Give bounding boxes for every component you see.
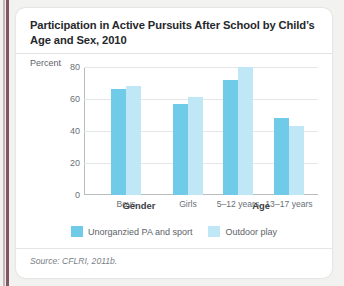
page-margin-rule bbox=[6, 0, 9, 286]
bar-group bbox=[274, 67, 304, 195]
figure-card: Participation in Active Pursuits After S… bbox=[16, 8, 332, 278]
bar-outdoor-play bbox=[188, 97, 203, 195]
y-axis-tick-label: 20 bbox=[54, 158, 80, 168]
legend-swatch bbox=[208, 226, 220, 237]
bar-outdoor-play bbox=[238, 67, 253, 195]
legend-item: Unorganzied PA and sport bbox=[71, 226, 192, 237]
legend-label: Unorganzied PA and sport bbox=[88, 227, 192, 237]
page-margin-rule-outer bbox=[3, 0, 5, 286]
legend-item: Outdoor play bbox=[208, 226, 277, 237]
chart-legend: Unorganzied PA and sportOutdoor play bbox=[16, 226, 332, 237]
bar-group bbox=[111, 67, 141, 195]
bar-outdoor-play bbox=[289, 126, 304, 195]
scanned-page-background: Participation in Active Pursuits After S… bbox=[0, 0, 344, 286]
figure-source: Source: CFLRI, 2011b. bbox=[30, 256, 117, 266]
y-axis-tick-label: 60 bbox=[54, 94, 80, 104]
bar-group bbox=[223, 67, 253, 195]
bar-unorganized-pa-and-sport bbox=[173, 104, 188, 195]
bar-unorganized-pa-and-sport bbox=[111, 89, 126, 195]
figure-title: Participation in Active Pursuits After S… bbox=[30, 18, 318, 47]
bar-unorganized-pa-and-sport bbox=[274, 118, 289, 195]
y-axis-tick-label: 40 bbox=[54, 126, 80, 136]
legend-label: Outdoor play bbox=[225, 227, 277, 237]
axis-group-label-age: Age bbox=[206, 200, 316, 211]
bar-outdoor-play bbox=[126, 86, 141, 195]
bar-unorganized-pa-and-sport bbox=[223, 80, 238, 195]
legend-swatch bbox=[71, 226, 83, 237]
chart-area: Percent 020406080 BoysGirls5–12 years13–… bbox=[16, 53, 332, 213]
axis-group-label-gender: Gender bbox=[84, 200, 194, 211]
y-axis-tick-label: 0 bbox=[54, 190, 80, 200]
source-divider bbox=[16, 248, 332, 249]
y-axis-tick-label: 80 bbox=[54, 62, 80, 72]
bar-group bbox=[173, 67, 203, 195]
plot-region: 020406080 BoysGirls5–12 years13–17 years bbox=[84, 67, 318, 195]
